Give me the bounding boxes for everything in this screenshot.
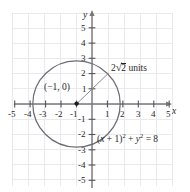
x-tick-label--2: -2: [55, 110, 63, 119]
y-tick-label--3: -3: [78, 146, 86, 155]
x-tick-label--3: -3: [39, 110, 47, 119]
coordinate-plane-svg: [0, 0, 190, 192]
y-tick-label-5: 5: [81, 24, 86, 33]
y-tick-label--2: -2: [78, 130, 86, 139]
radius-units: units: [128, 63, 146, 73]
equation-exponent-1: 2: [122, 132, 125, 139]
x-tick-label-2: 2: [120, 110, 125, 119]
x-tick-label--5: -5: [8, 110, 16, 119]
center-point-dot: [74, 101, 78, 105]
x-tick-label-1: 1: [105, 110, 110, 119]
y-tick-label-4: 4: [81, 39, 86, 48]
x-axis-label: x: [172, 107, 176, 117]
equation-rhs: = 8: [146, 134, 158, 144]
x-tick-label-4: 4: [151, 110, 156, 119]
y-tick-label--4: -4: [78, 161, 86, 170]
x-tick-label-3: 3: [136, 110, 141, 119]
x-tick-label--1: -1: [70, 110, 78, 119]
radicand: 2: [121, 63, 126, 74]
equation-plus: +: [128, 134, 136, 144]
x-tick-label-5: 5: [166, 110, 171, 119]
radius-length-label: 2√2 units: [111, 62, 147, 74]
y-tick-label--5: -5: [78, 176, 86, 185]
equation-x-var: x: [100, 134, 104, 144]
circle-equation-label: (x + 1)2 + y2 = 8: [97, 135, 158, 145]
y-tick-label-2: 2: [81, 69, 86, 78]
y-tick-label-3: 3: [81, 54, 86, 63]
y-tick-label-1: 1: [82, 85, 87, 94]
y-axis-label: y: [83, 11, 87, 21]
equation-plus-one: + 1): [107, 134, 123, 144]
equation-exponent-2: 2: [140, 132, 143, 139]
circle-graph-figure: -5 -4 -3 -2 -1 1 2 3 4 5 5 4 3 2 1 -1 -2…: [0, 0, 190, 192]
center-point-label: (−1, 0): [44, 83, 70, 93]
y-tick-label--1: -1: [78, 115, 86, 124]
axis-lines: [14, 14, 168, 188]
x-tick-label--4: -4: [24, 110, 32, 119]
